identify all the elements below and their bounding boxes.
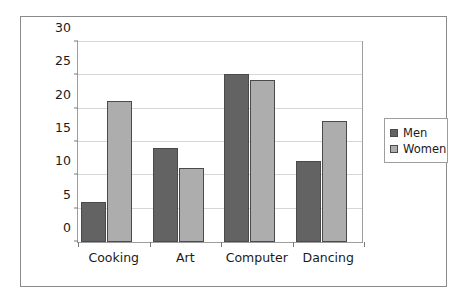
legend-item-men[interactable]: Men [390, 125, 442, 140]
y-tick-label: 5 [63, 186, 71, 201]
legend-swatch-men-icon [390, 129, 398, 137]
bar-women-computer [250, 80, 275, 242]
bars-layer [78, 42, 362, 242]
x-tick-mark [221, 242, 222, 247]
bar-men-cooking [81, 202, 106, 242]
legend-item-women[interactable]: Women [390, 141, 442, 156]
x-tick-mark [293, 242, 294, 247]
y-tick-label: 10 [55, 153, 71, 168]
y-tick-label: 20 [55, 86, 71, 101]
bar-group [150, 42, 222, 242]
bar-men-computer [224, 74, 249, 242]
chart-legend: MenWomen [384, 118, 448, 163]
legend-label: Women [403, 142, 446, 156]
x-tick-mark [78, 242, 79, 247]
bar-group [293, 42, 365, 242]
bar-group [78, 42, 150, 242]
x-category-label-dancing: Dancing [303, 250, 354, 265]
legend-label: Men [403, 126, 427, 140]
chart-figure-frame: Number of people 051015202530 CookingArt… [20, 16, 447, 287]
plot-area: 051015202530 CookingArtComputerDancing [77, 41, 363, 243]
x-category-label-computer: Computer [226, 250, 288, 265]
y-tick-label: 0 [63, 220, 71, 235]
bar-men-art [153, 148, 178, 242]
legend-swatch-women-icon [390, 145, 398, 153]
bar-women-dancing [322, 121, 347, 242]
bar-women-art [179, 168, 204, 242]
x-category-label-cooking: Cooking [88, 250, 139, 265]
x-tick-mark [150, 242, 151, 247]
bar-men-dancing [296, 161, 321, 242]
x-tick-mark [364, 242, 365, 247]
y-tick-label: 15 [55, 120, 71, 135]
bar-women-cooking [107, 101, 132, 242]
bar-group [221, 42, 293, 242]
y-tick-label: 30 [55, 20, 71, 35]
x-category-label-art: Art [176, 250, 195, 265]
y-tick-label: 25 [55, 53, 71, 68]
